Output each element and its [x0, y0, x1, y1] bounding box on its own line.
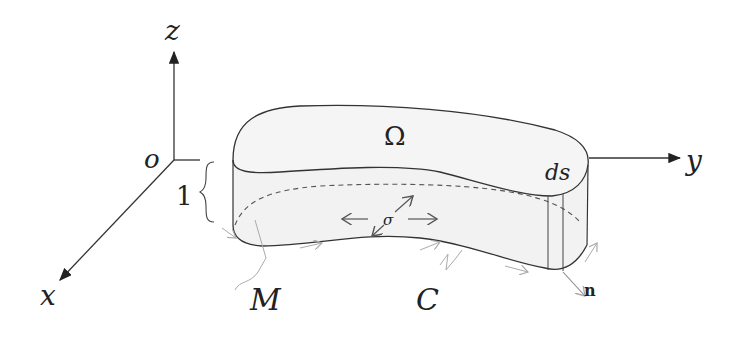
x-axis-label: x [40, 279, 56, 312]
origin-label: o [144, 144, 160, 174]
y-axis-label: y [684, 144, 703, 177]
moment-label: M [249, 282, 282, 317]
normal-vector [563, 272, 585, 296]
diagram-canvas: z o x y Ω 1 ds σ n C M [0, 0, 733, 340]
thickness-brace [200, 162, 214, 222]
curve-label: C [416, 282, 439, 317]
z-axis-label: z [164, 14, 180, 47]
sigma-label: σ [383, 211, 394, 229]
x-axis [60, 160, 174, 280]
ds-label: ds [545, 160, 570, 185]
omega-label: Ω [384, 121, 406, 151]
thickness-label: 1 [176, 181, 193, 211]
normal-label: n [584, 281, 596, 300]
